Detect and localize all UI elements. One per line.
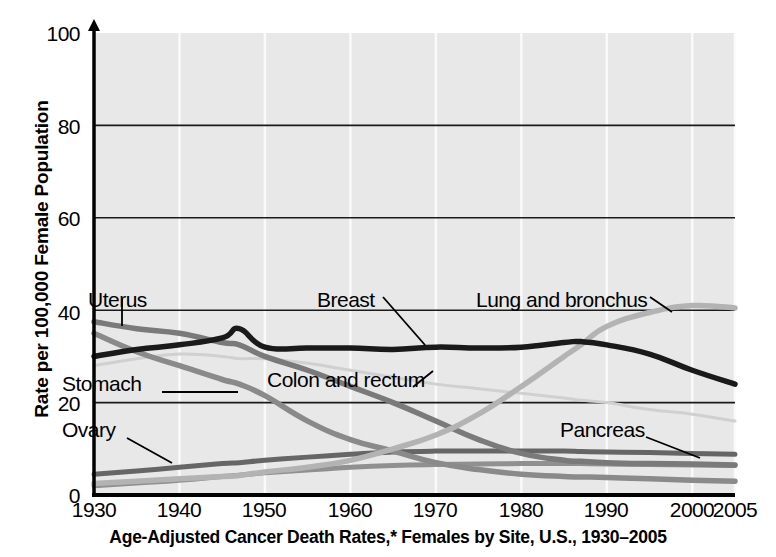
series-label-uterus: Uterus (88, 288, 147, 312)
plot-canvas (0, 0, 776, 557)
series-label-colon-and-rectum: Colon and rectum (267, 368, 425, 392)
series-label-breast: Breast (317, 288, 375, 312)
cancer-death-rates-chart: Rate per 100,000 Female Population 100 8… (0, 0, 776, 557)
series-label-stomach: Stomach (62, 372, 141, 396)
series-label-ovary: Ovary (62, 418, 116, 442)
figure-caption: Age-Adjusted Cancer Death Rates,* Female… (0, 527, 776, 548)
series-label-lung-and-bronchus: Lung and bronchus (476, 288, 647, 312)
series-label-pancreas: Pancreas (560, 418, 645, 442)
